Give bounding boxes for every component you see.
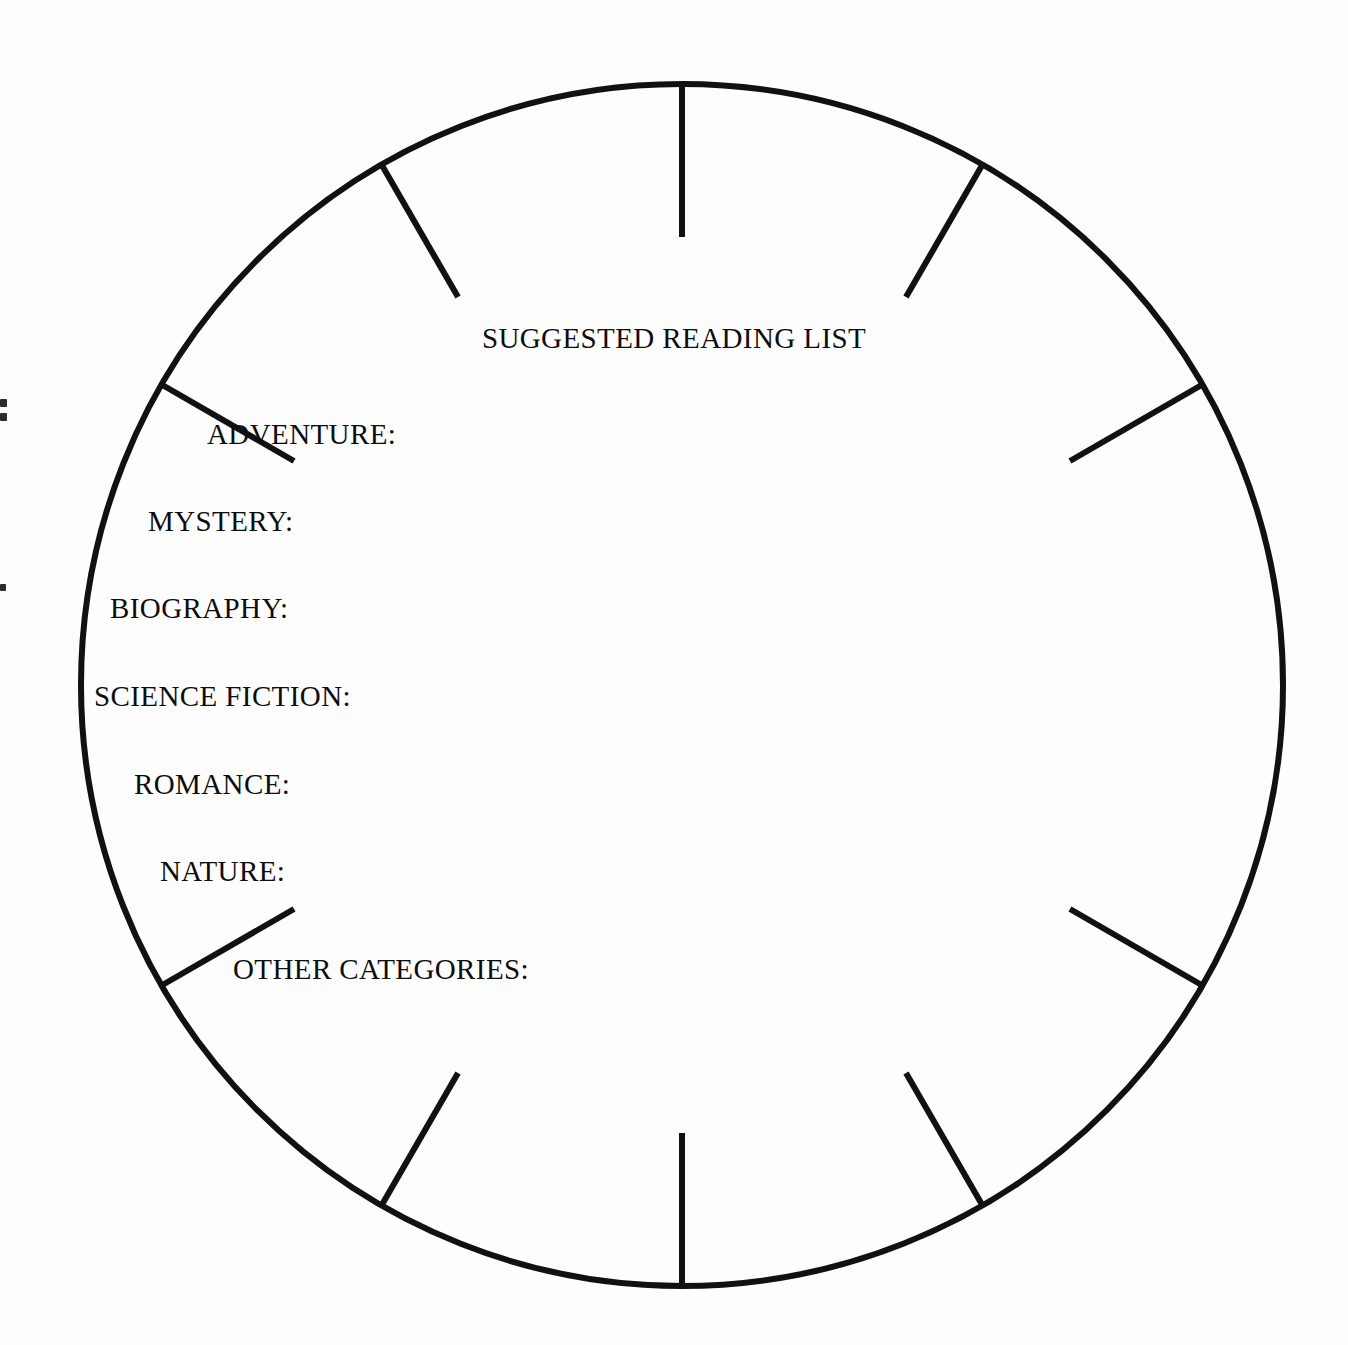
scan-artifact-mark-0 [0, 399, 7, 407]
category-row[interactable]: OTHER CATEGORIES: [233, 953, 529, 986]
category-label: MYSTERY: [148, 505, 294, 538]
category-label: NATURE: [160, 855, 285, 888]
worksheet-text-layer: SUGGESTED READING LIST ADVENTURE:MYSTERY… [0, 0, 1348, 1345]
reading-list-worksheet-page: SUGGESTED READING LIST ADVENTURE:MYSTERY… [0, 0, 1348, 1345]
scan-artifact-mark-1 [0, 413, 7, 421]
category-label: ROMANCE: [134, 768, 290, 801]
category-label: OTHER CATEGORIES: [233, 953, 529, 986]
category-row[interactable]: SCIENCE FICTION: [94, 680, 351, 713]
category-label: SCIENCE FICTION: [94, 680, 351, 713]
page-title: SUGGESTED READING LIST [0, 322, 1348, 355]
category-label: ADVENTURE: [207, 418, 396, 451]
category-row[interactable]: MYSTERY: [148, 505, 294, 538]
category-row[interactable]: ROMANCE: [134, 768, 290, 801]
category-label: BIOGRAPHY: [110, 592, 289, 625]
category-row[interactable]: NATURE: [160, 855, 285, 888]
scan-artifact-mark-2 [0, 584, 6, 591]
category-row[interactable]: BIOGRAPHY: [110, 592, 289, 625]
category-row[interactable]: ADVENTURE: [207, 418, 396, 451]
